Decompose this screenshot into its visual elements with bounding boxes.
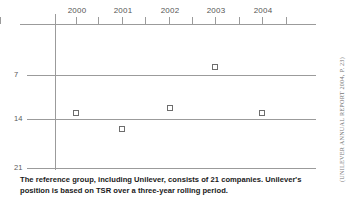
x-tick-center-2000	[76, 17, 77, 24]
gridline-14	[27, 119, 316, 120]
x-tick-center-2004	[262, 17, 263, 24]
data-point-2004	[259, 110, 265, 116]
scatter-plot: 2000 2001 2002 2003 2004 7 14 21	[0, 0, 320, 172]
x-tick-center-2002	[169, 17, 170, 24]
data-point-2003	[212, 64, 218, 70]
x-tick-boundary-0	[55, 14, 56, 24]
x-tick-boundary-1	[98, 17, 99, 24]
x-tick-label-2004: 2004	[254, 6, 273, 15]
data-point-2001	[119, 126, 125, 132]
x-tick-label-2001: 2001	[114, 6, 133, 15]
top-axis-line	[20, 24, 316, 25]
y-tick-label-7: 7	[14, 71, 18, 79]
gridline-21	[27, 168, 316, 169]
source-credit: (UNILEVER ANNUAL REPORT 2004, P. 23)	[336, 22, 348, 182]
x-tick-boundary-2	[145, 17, 146, 24]
gridline-7	[27, 75, 316, 76]
data-point-2000	[73, 110, 79, 116]
vertical-axis-line	[55, 24, 56, 170]
figure-caption: The reference group, including Unilever,…	[20, 175, 312, 196]
x-tick-label-2002: 2002	[161, 6, 180, 15]
x-tick-boundary-5	[286, 17, 287, 24]
x-tick-center-2003	[215, 17, 216, 24]
y-tick-label-21: 21	[14, 164, 23, 172]
x-tick-spacer	[0, 17, 1, 24]
x-tick-boundary-3	[192, 17, 193, 24]
tsr-ranking-figure: 2000 2001 2002 2003 2004 7 14 21 The ref…	[0, 0, 349, 204]
source-credit-text: (UNILEVER ANNUAL REPORT 2004, P. 23)	[338, 57, 345, 182]
y-tick-label-14: 14	[14, 115, 23, 123]
x-tick-label-2003: 2003	[207, 6, 226, 15]
data-point-2002	[167, 105, 173, 111]
x-tick-center-2001	[122, 17, 123, 24]
x-tick-label-2000: 2000	[68, 6, 87, 15]
x-tick-boundary-4	[239, 17, 240, 24]
